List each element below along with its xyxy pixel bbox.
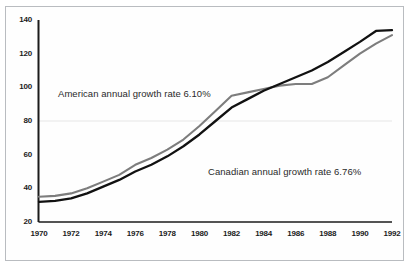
y-tick-label-100: 100 xyxy=(6,82,32,91)
x-tick-label-1980: 1980 xyxy=(182,229,216,238)
x-tick-label-1976: 1976 xyxy=(118,229,152,238)
series-annotation-canadian: Canadian annual growth rate 6.76% xyxy=(208,166,361,177)
y-tick-label-80: 80 xyxy=(6,116,32,125)
y-tick-label-140: 140 xyxy=(6,15,32,24)
x-tick-label-1984: 1984 xyxy=(247,229,281,238)
x-tick-label-1972: 1972 xyxy=(54,229,88,238)
x-tick-label-1992: 1992 xyxy=(375,229,409,238)
y-tick-label-120: 120 xyxy=(6,49,32,58)
x-tick-label-1986: 1986 xyxy=(279,229,313,238)
x-tick-label-1978: 1978 xyxy=(150,229,184,238)
series-annotation-american: American annual growth rate 6.10% xyxy=(58,88,211,99)
y-tick-label-60: 60 xyxy=(6,150,32,159)
x-tick-label-1970: 1970 xyxy=(22,229,56,238)
y-tick-label-20: 20 xyxy=(6,217,32,226)
line-chart-svg xyxy=(0,0,409,266)
x-tick-label-1988: 1988 xyxy=(311,229,345,238)
x-tick-label-1974: 1974 xyxy=(86,229,120,238)
chart-plot-area xyxy=(0,0,409,266)
chart-figure: 20406080100120140 1970197219741976197819… xyxy=(0,0,409,266)
x-tick-label-1990: 1990 xyxy=(343,229,377,238)
y-tick-label-40: 40 xyxy=(6,183,32,192)
x-tick-label-1982: 1982 xyxy=(215,229,249,238)
